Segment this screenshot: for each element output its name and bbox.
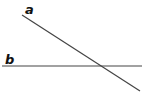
- lines-svg: [0, 0, 148, 104]
- diagram-canvas: a b: [0, 0, 148, 104]
- line-a: [22, 15, 140, 91]
- line-b-label: b: [5, 53, 14, 66]
- line-a-label: a: [25, 3, 34, 16]
